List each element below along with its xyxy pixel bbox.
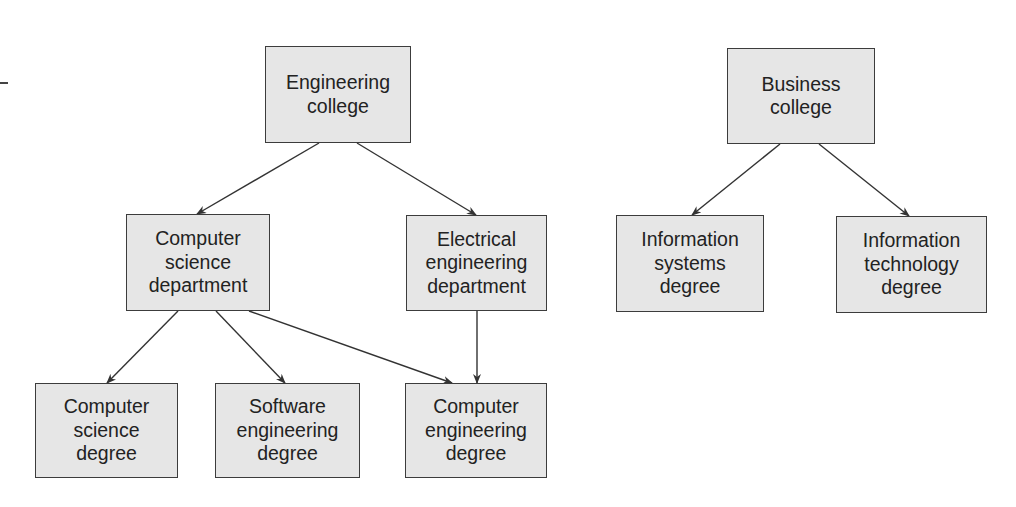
- edge-engineering_college-to-cs_department: [197, 143, 319, 214]
- edge-cs_department-to-ce_degree: [249, 311, 452, 383]
- edge-business_college-to-it_degree: [819, 144, 909, 216]
- node-business-college: Business college: [727, 48, 875, 144]
- node-it-degree: Information technology degree: [836, 216, 987, 313]
- node-se-degree: Software engineering degree: [215, 383, 360, 478]
- node-is-degree: Information systems degree: [616, 215, 764, 312]
- edge-engineering_college-to-ee_department: [357, 143, 476, 215]
- edge-business_college-to-is_degree: [692, 144, 780, 215]
- node-ce-degree: Computer engineering degree: [405, 383, 547, 478]
- edge-cs_department-to-cs_degree: [107, 311, 178, 383]
- edge-cs_department-to-se_degree: [216, 311, 285, 383]
- node-cs-degree: Computer science degree: [35, 383, 178, 478]
- node-engineering-college: Engineering college: [265, 46, 411, 143]
- node-ee-department: Electrical engineering department: [406, 215, 547, 311]
- node-cs-department: Computer science department: [126, 214, 270, 311]
